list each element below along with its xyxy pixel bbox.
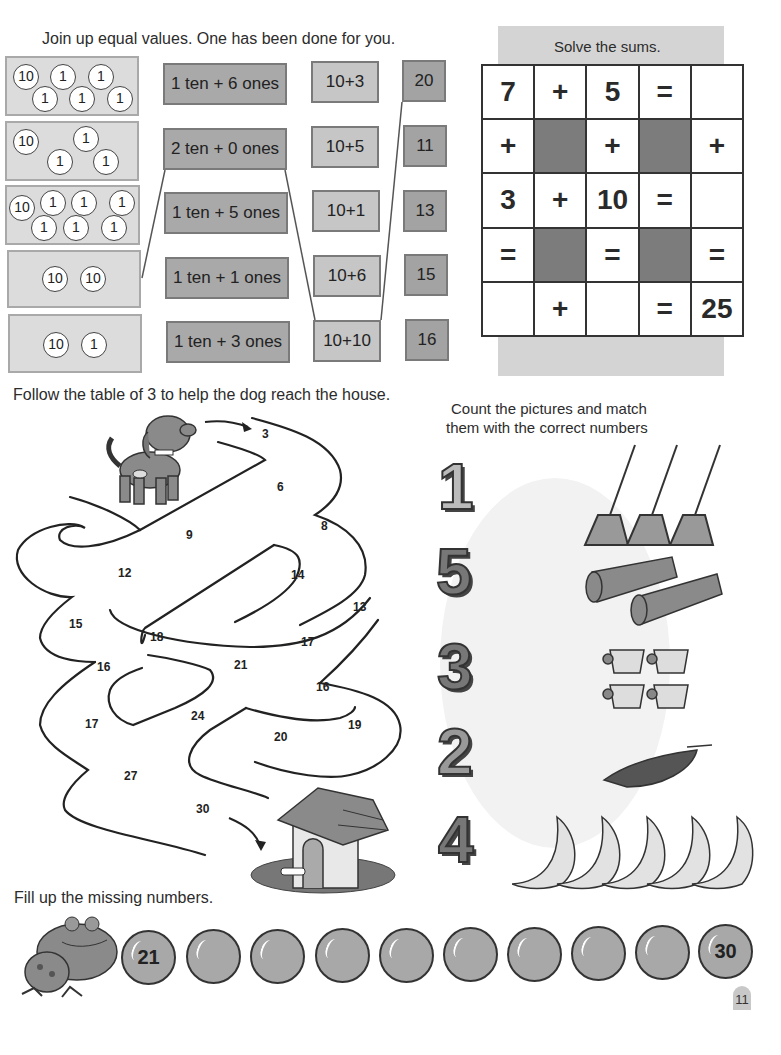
grid-cell: 5 (587, 66, 637, 118)
grid-cell: + (692, 120, 742, 172)
shaded-cell (640, 229, 690, 281)
cups-picture[interactable] (602, 645, 697, 720)
maze-number: 15 (69, 617, 82, 631)
number-bubble-empty[interactable] (379, 928, 434, 983)
shaded-cell (535, 229, 585, 281)
maze-number: 12 (118, 566, 131, 580)
grid-cell: = (640, 283, 690, 335)
answer-cell[interactable] (692, 66, 742, 118)
grid-cell: = (587, 229, 637, 281)
number-bubble-empty[interactable] (635, 925, 690, 980)
number-bubble-empty[interactable] (507, 927, 562, 982)
count-number-2[interactable]: 2 (437, 715, 473, 789)
maze-number: 19 (348, 718, 361, 732)
sums-title: Solve the sums. (554, 38, 661, 55)
number-bubble-empty[interactable] (250, 929, 305, 984)
grid-cell: + (587, 120, 637, 172)
answer-cell[interactable] (483, 283, 533, 335)
grid-cell: = (640, 174, 690, 226)
answer-cell[interactable] (692, 174, 742, 226)
grid-cell: = (640, 66, 690, 118)
maze-number: 9 (186, 528, 193, 542)
number-bubble-empty[interactable] (443, 927, 498, 982)
number-bubble-empty[interactable] (315, 928, 370, 983)
maze-number: 20 (274, 730, 287, 744)
number-bubble: 21 (121, 930, 176, 985)
grid-cell: 25 (692, 283, 742, 335)
count-instruction-1: Count the pictures and match (451, 400, 647, 417)
maze-number: 14 (291, 568, 304, 582)
maze-number: 16 (97, 660, 110, 674)
grid-cell: 10 (587, 174, 637, 226)
grid-cell: + (483, 120, 533, 172)
frog-icon (12, 912, 122, 1002)
sums-grid: 7 + 5 = + + + 3 + 10 = = = = + = 25 (481, 64, 744, 337)
maze-number: 21 (234, 658, 247, 672)
grid-cell: = (692, 229, 742, 281)
number-bubble-empty[interactable] (571, 926, 626, 981)
count-instruction-2: them with the correct numbers (446, 419, 648, 436)
maze-number: 27 (124, 769, 137, 783)
fill-instruction: Fill up the missing numbers. (14, 889, 213, 907)
shaded-cell (640, 120, 690, 172)
maze-number: 30 (196, 802, 209, 816)
pea-pod-picture[interactable] (602, 735, 717, 790)
grid-cell: + (535, 66, 585, 118)
maze-number: 17 (85, 717, 98, 731)
count-number-5[interactable]: 5 (436, 535, 472, 609)
maze-number: 13 (353, 600, 366, 614)
mops-picture[interactable] (580, 440, 730, 550)
count-number-1[interactable]: 1 (438, 450, 474, 524)
moons-picture[interactable] (512, 812, 757, 890)
grid-cell: = (483, 229, 533, 281)
number-bubble: 30 (698, 924, 753, 979)
join-lines (0, 0, 460, 380)
dog-icon (100, 408, 200, 508)
grid-cell: 3 (483, 174, 533, 226)
maze-number: 16 (316, 680, 329, 694)
grid-cell: + (535, 174, 585, 226)
maze-number: 17 (301, 635, 314, 649)
maze-number: 24 (191, 709, 204, 723)
dog-house-icon (248, 780, 398, 900)
maze-number: 8 (321, 519, 328, 533)
count-number-4[interactable]: 4 (438, 803, 474, 877)
grid-cell: 7 (483, 66, 533, 118)
page-number: 11 (733, 986, 751, 1010)
count-number-3[interactable]: 3 (437, 630, 473, 704)
maze-number: 6 (277, 480, 284, 494)
number-bubble-empty[interactable] (186, 929, 241, 984)
maze-number: 3 (262, 427, 269, 441)
grid-cell: + (535, 283, 585, 335)
answer-cell[interactable] (587, 283, 637, 335)
shaded-cell (535, 120, 585, 172)
logs-picture[interactable] (582, 552, 727, 627)
maze-number: 18 (150, 630, 163, 644)
